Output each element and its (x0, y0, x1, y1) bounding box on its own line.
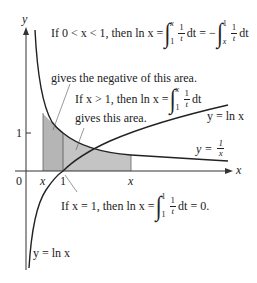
integral: ∫ x 1 1 t dt (169, 86, 202, 112)
integrand-fraction: 1 t (184, 89, 191, 109)
integral-2: ∫ 1 x 1 t dt (216, 20, 249, 46)
lower-limit: 1 (162, 211, 166, 219)
integral-limits: 1 1 (162, 193, 166, 219)
x-marker-right: x (128, 175, 133, 187)
annotation-less-than-one: If 0 < x < 1, then ln x = ∫ x 1 1 t dt =… (51, 20, 249, 46)
ln-label-upper-text: y = ln x (207, 109, 244, 123)
integral-sign-icon: ∫ (156, 192, 162, 220)
annotation-greater-than-one: If x > 1, then ln x = ∫ x 1 1 t dt (75, 86, 201, 112)
upper-limit: x (170, 20, 174, 28)
annotation-greater-than-one-line2: gives this area. (75, 112, 147, 124)
fraction-numerator: 1 (184, 89, 191, 99)
x-tick-one-label: 1 (60, 175, 66, 187)
x-marker-left: x (40, 175, 45, 187)
annotation-text: If x = 1, then ln x = (61, 200, 155, 212)
integral-limits: x 1 (176, 86, 180, 112)
x-axis-label: x (236, 164, 241, 176)
lower-limit: 1 (176, 104, 180, 112)
fraction-numerator: 1 (170, 196, 177, 206)
fraction-denominator: x (219, 149, 223, 158)
differential: dt = − (187, 27, 216, 39)
x-axis-arrow-icon (225, 168, 233, 174)
integral: ∫ 1 1 1 t dt = 0. (155, 193, 210, 219)
ln-label-upper: y = ln x (207, 110, 244, 122)
integral-1: ∫ x 1 1 t dt = − (163, 20, 215, 46)
ln-label-lower: y = ln x (33, 247, 70, 259)
shaded-area-right (63, 133, 131, 171)
upper-limit: 1 (223, 20, 227, 28)
lower-limit: 1 (170, 38, 174, 46)
lower-limit: x (223, 38, 227, 46)
reciprocal-label-prefix: y = (196, 143, 215, 155)
origin-label: 0 (16, 175, 22, 187)
y-axis-arrow-icon (23, 27, 29, 35)
integrand-fraction: 1 t (170, 196, 177, 216)
integral-sign-icon: ∫ (164, 19, 170, 47)
differential: dt (192, 93, 201, 105)
annotation-text: If 0 < x < 1, then ln x = (51, 27, 163, 39)
fraction-denominator: t (186, 100, 189, 109)
annotation-text: If x > 1, then ln x = (75, 93, 169, 105)
upper-limit: 1 (162, 193, 166, 201)
fraction-denominator: t (180, 34, 183, 43)
fraction-numerator: 1 (178, 23, 185, 33)
reciprocal-fraction: 1 x (217, 139, 224, 159)
reciprocal-label: y = 1 x (196, 139, 226, 159)
integrand-fraction: 1 t (178, 23, 185, 43)
integrand-fraction: 1 t (231, 23, 238, 43)
integral-sign-icon: ∫ (217, 19, 223, 47)
integral-sign-icon: ∫ (170, 85, 176, 113)
y-tick-one-label: 1 (16, 127, 22, 139)
integral-limits: x 1 (170, 20, 174, 46)
differential: dt = 0. (178, 200, 209, 212)
integral-limits: 1 x (223, 20, 227, 46)
y-axis-label: y (22, 13, 27, 25)
annotation-equal-one: If x = 1, then ln x = ∫ 1 1 1 t dt = 0. (61, 193, 209, 219)
leader-left-area (53, 84, 70, 130)
fraction-numerator: 1 (231, 23, 238, 33)
leader-at-one (65, 175, 77, 192)
fraction-denominator: t (172, 207, 175, 216)
differential: dt (239, 27, 248, 39)
ln-label-lower-text: y = ln x (33, 246, 70, 260)
fraction-denominator: t (233, 34, 236, 43)
upper-limit: x (176, 86, 180, 94)
